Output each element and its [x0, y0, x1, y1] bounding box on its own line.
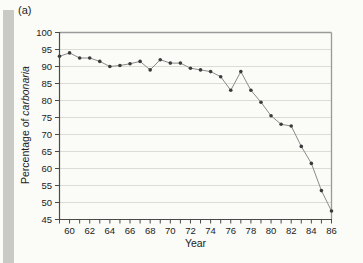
- data-point: [108, 65, 112, 69]
- data-point: [118, 64, 122, 68]
- data-point: [310, 162, 314, 166]
- x-axis-title: Year: [59, 237, 332, 249]
- svg-text:95: 95: [41, 44, 52, 55]
- data-point: [279, 123, 283, 127]
- data-point: [299, 145, 303, 149]
- data-point: [229, 89, 233, 93]
- data-point: [128, 62, 132, 66]
- svg-text:74: 74: [205, 225, 216, 236]
- line-chart: 4550556065707580859095100606264666870727…: [0, 0, 363, 263]
- data-point: [148, 68, 152, 72]
- svg-text:85: 85: [41, 78, 52, 89]
- svg-text:82: 82: [286, 225, 297, 236]
- svg-text:66: 66: [125, 225, 136, 236]
- data-point: [199, 68, 203, 72]
- svg-text:80: 80: [41, 95, 52, 106]
- svg-text:45: 45: [41, 214, 52, 225]
- x-axis-ticks: 6062646668707274767880828486: [60, 220, 337, 237]
- svg-text:60: 60: [41, 163, 52, 174]
- svg-text:75: 75: [41, 112, 52, 123]
- data-point: [179, 61, 183, 65]
- data-point: [88, 56, 92, 60]
- data-point: [169, 61, 173, 65]
- data-point: [289, 124, 293, 128]
- data-series: [58, 51, 334, 213]
- svg-text:84: 84: [306, 225, 317, 236]
- svg-text:60: 60: [64, 225, 75, 236]
- data-point: [219, 75, 223, 79]
- svg-text:80: 80: [266, 225, 277, 236]
- data-point: [239, 70, 243, 74]
- data-point: [259, 100, 263, 104]
- svg-text:72: 72: [185, 225, 196, 236]
- data-point: [269, 114, 273, 118]
- svg-text:70: 70: [165, 225, 176, 236]
- svg-text:55: 55: [41, 180, 52, 191]
- data-point: [58, 55, 62, 59]
- svg-text:90: 90: [41, 61, 52, 72]
- data-point: [78, 56, 82, 60]
- svg-text:50: 50: [41, 197, 52, 208]
- data-point: [138, 60, 142, 64]
- svg-text:68: 68: [145, 225, 156, 236]
- data-point: [158, 58, 162, 62]
- svg-text:62: 62: [84, 225, 95, 236]
- svg-text:70: 70: [41, 129, 52, 140]
- y-axis-title: Percentage of carbonaria: [19, 32, 33, 219]
- data-point: [189, 66, 193, 70]
- y-axis-title-italic: carbonaria: [19, 66, 31, 116]
- data-point: [320, 189, 324, 193]
- data-point: [209, 70, 213, 74]
- svg-text:86: 86: [326, 225, 337, 236]
- y-axis-title-text: Percentage of: [19, 116, 31, 184]
- svg-text:65: 65: [41, 146, 52, 157]
- y-axis-ticks: 4550556065707580859095100: [36, 27, 59, 225]
- svg-text:76: 76: [225, 225, 236, 236]
- svg-text:78: 78: [246, 225, 257, 236]
- svg-text:64: 64: [105, 225, 116, 236]
- svg-text:100: 100: [36, 27, 52, 38]
- data-point: [330, 209, 334, 213]
- data-point: [68, 51, 72, 55]
- data-point: [249, 89, 253, 93]
- data-point: [98, 60, 102, 64]
